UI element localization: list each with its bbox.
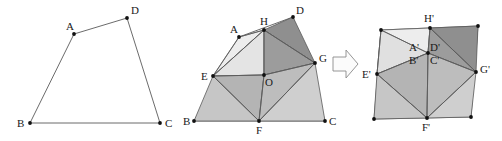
vertex-label-c: C xyxy=(165,117,172,129)
vertex-label-o: O xyxy=(265,76,273,88)
transformation-arrow xyxy=(333,50,358,78)
vertex-label-d2: D xyxy=(296,4,304,16)
vertex-dot-b xyxy=(28,121,32,125)
figure-canvas: A D B C xyxy=(0,0,502,141)
vertex-dot-e-prime xyxy=(375,72,379,76)
vertex-dot-c xyxy=(158,121,162,125)
vertex-dot-a2 xyxy=(237,35,241,39)
arrow-right-icon xyxy=(333,50,358,78)
vertex-label-g-prime: G' xyxy=(480,63,490,75)
vertex-dot-c2 xyxy=(323,119,327,123)
vertex-dot-f-prime xyxy=(425,116,429,120)
vertex-dot-d xyxy=(125,16,129,20)
panel-dissected-quadrilateral: A D B C E F G H O xyxy=(183,4,336,136)
vertex-label-b2: B xyxy=(183,115,190,127)
vertex-label-h-prime: H' xyxy=(424,12,434,24)
vertex-dot-b2 xyxy=(192,119,196,123)
geometry-figure: A D B C xyxy=(0,0,502,141)
vertex-label-b-prime: B' xyxy=(409,54,418,66)
quad-abcd-outline xyxy=(30,18,160,123)
vertex-label-b: B xyxy=(17,117,24,129)
corner-dot-top-left xyxy=(379,28,383,32)
vertex-label-f: F xyxy=(256,124,262,136)
vertex-dot-g-prime xyxy=(474,70,478,74)
vertex-label-d-prime: D' xyxy=(430,41,440,53)
vertex-label-f-prime: F' xyxy=(422,121,430,133)
vertex-label-d: D xyxy=(131,4,139,16)
vertex-label-c2: C xyxy=(329,115,336,127)
vertex-label-c-prime: C' xyxy=(430,54,439,66)
panel-original-quadrilateral: A D B C xyxy=(17,4,172,129)
corner-dot-top-right xyxy=(476,24,480,28)
vertex-label-g: G xyxy=(319,52,327,64)
corner-dot-bottom-right xyxy=(469,115,473,119)
vertex-dot-d2 xyxy=(291,15,295,19)
vertex-dot-g xyxy=(313,61,317,65)
vertex-dot-e xyxy=(211,74,215,78)
corner-dot-bottom-left xyxy=(372,117,376,121)
vertex-dot-f xyxy=(257,119,261,123)
vertex-dot-a xyxy=(72,32,76,36)
vertex-label-a-prime: A' xyxy=(409,41,419,53)
vertex-label-a: A xyxy=(66,20,74,32)
vertex-label-e-prime: E' xyxy=(362,68,371,80)
vertex-dot-h-prime xyxy=(428,26,432,30)
vertex-label-e: E xyxy=(201,70,208,82)
vertex-dot-h xyxy=(262,28,266,32)
vertex-label-h: H xyxy=(260,15,268,27)
panel-rearranged-square: H' E' G' F' A' D' B' C' xyxy=(362,12,490,133)
vertex-label-a2: A xyxy=(230,23,238,35)
